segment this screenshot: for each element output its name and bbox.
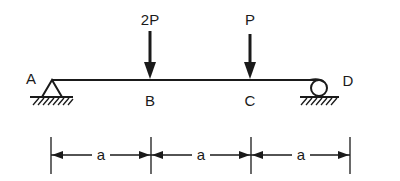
point-label-b: B xyxy=(145,92,155,109)
point-label-c: C xyxy=(245,92,256,109)
roller-support-d xyxy=(300,79,339,105)
pin-support-a xyxy=(30,80,73,105)
dimension-label-cd: a xyxy=(297,146,306,163)
load-arrow-p xyxy=(244,34,256,79)
point-label-d: D xyxy=(343,72,354,89)
dimension-label-bc: a xyxy=(197,146,206,163)
dimension-label-ab: a xyxy=(97,146,106,163)
load-arrow-2p xyxy=(144,31,156,79)
ground-hatch-a xyxy=(33,98,73,105)
ground-hatch-d xyxy=(301,98,337,105)
load-label-2p: 2P xyxy=(141,11,159,28)
load-label-p: P xyxy=(245,11,255,28)
beam-diagram: 2P P A B C D a a a xyxy=(0,0,400,181)
point-label-a: A xyxy=(26,70,36,87)
